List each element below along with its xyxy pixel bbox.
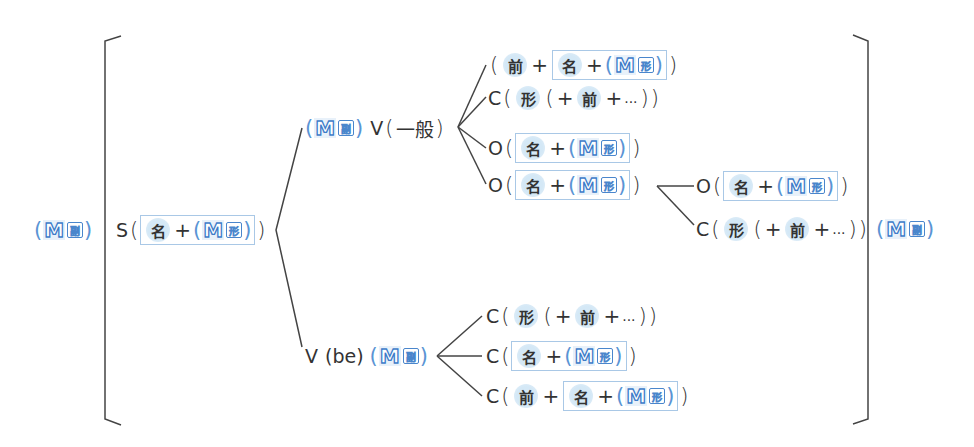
verb-type: 一般 [396, 115, 434, 142]
noun-phrase-box: 名 + ( M 形 ) [511, 341, 626, 371]
noun-chip: 名 [146, 218, 170, 242]
sub-object-noun-phrase: O ( 名 + ( M 形 ) ) [696, 171, 850, 201]
open-paren: ( [568, 136, 576, 160]
complement-label: C [696, 218, 709, 240]
be-complement-noun-phrase: C ( 名 + ( M 形 ) ) [486, 341, 639, 371]
noun-phrase-box: 名 + ( M 形 ) [563, 381, 678, 411]
be-complement-prep-phrase: C ( 前 + 名 + ( M 形 ) ) [486, 381, 691, 411]
adjective-icon: 形 [226, 222, 242, 238]
plus: + [557, 86, 574, 110]
object-noun-phrase-2: O ( 名 + ( M 形 ) ) [488, 170, 642, 200]
open-paren: ( [713, 174, 721, 198]
close-paren: ) [840, 174, 848, 198]
modifier-badge: M 形 [573, 346, 613, 366]
ellipsis: ... [624, 90, 637, 106]
modifier-badge: M 形 [614, 55, 654, 75]
be-complement-adjective: C ( 形 ( + 前 + ... ) ) [486, 301, 659, 331]
object-noun-phrase: O ( 名 + ( M 形 ) ) [488, 133, 642, 163]
noun-chip: 名 [569, 384, 593, 408]
close-paren: ) [641, 86, 649, 110]
open-paren: ( [876, 217, 884, 241]
noun-phrase-box: 名 + ( M 形 ) [515, 170, 630, 200]
close-paren: ) [632, 173, 640, 197]
close-paren: ) [629, 344, 637, 368]
close-paren: ) [614, 344, 622, 368]
plus: + [549, 173, 566, 197]
plus: + [586, 53, 603, 77]
general-verb-node: ( M 副 ) V ( 一般 ) [304, 113, 446, 143]
close-paren: ) [436, 116, 444, 140]
m-icon: M [314, 118, 336, 138]
plus: + [603, 304, 620, 328]
plus: + [545, 344, 562, 368]
m-icon: M [625, 386, 647, 406]
complement-prep-phrase: ( 前 + 名 + ( M 形 ) ) [488, 50, 679, 80]
plus: + [757, 174, 774, 198]
adjective-chip: 形 [516, 86, 540, 110]
close-paren: ) [680, 384, 688, 408]
modifier-badge: M 形 [577, 138, 617, 158]
open-paren: ( [505, 173, 513, 197]
modifier-badge: M 副 [379, 346, 419, 366]
complement-label: C [486, 305, 499, 327]
m-icon: M [577, 138, 599, 158]
modifier-badge: M 副 [314, 118, 354, 138]
preposition-chip: 前 [575, 304, 599, 328]
open-paren: ( [490, 53, 498, 77]
close-paren: ) [849, 217, 857, 241]
open-paren: ( [305, 116, 313, 140]
modifier-badge: M 形 [577, 175, 617, 195]
open-paren: ( [34, 218, 42, 242]
noun-chip: 名 [521, 173, 545, 197]
plus: + [813, 217, 830, 241]
ellipsis: ... [622, 308, 635, 324]
noun-phrase-box: 名 + ( M 形 ) [723, 171, 838, 201]
open-paren: ( [385, 116, 393, 140]
adverb-icon: 副 [67, 222, 83, 238]
modifier-badge: M 形 [625, 386, 665, 406]
plus: + [531, 53, 548, 77]
noun-phrase-box: 名 + ( M 形 ) [515, 133, 630, 163]
close-paren: ) [651, 86, 659, 110]
subject-fork [276, 128, 302, 347]
m-icon: M [573, 346, 595, 366]
open-paren: ( [193, 218, 201, 242]
open-paren: ( [545, 86, 553, 110]
open-paren: ( [776, 174, 784, 198]
close-paren: ) [257, 218, 265, 242]
m-icon: M [785, 176, 807, 196]
object-label: O [696, 175, 711, 197]
close-paren: ) [859, 217, 867, 241]
sub-complement-adjective: C ( 形 ( + 前 + ... ) ) [696, 214, 869, 244]
open-paren: ( [568, 173, 576, 197]
be-verb-node: V (be) ( M 副 ) [305, 341, 429, 371]
close-paren: ) [84, 218, 92, 242]
subject-label: S [116, 219, 128, 241]
open-paren: ( [753, 217, 761, 241]
plus: + [605, 86, 622, 110]
verb-label: V [370, 117, 383, 139]
noun-phrase-box: 名 + ( M 形 ) [140, 215, 255, 245]
adverb-icon: 副 [338, 120, 354, 136]
adjective-icon: 形 [809, 178, 825, 194]
adverb-icon: 副 [909, 221, 925, 237]
close-paren: ) [655, 53, 663, 77]
m-icon: M [577, 175, 599, 195]
open-paren: ( [543, 304, 551, 328]
ellipsis: ... [832, 221, 845, 237]
open-paren: ( [130, 218, 138, 242]
m-icon: M [379, 346, 401, 366]
verb-type: (be) [325, 345, 364, 367]
plus: + [542, 384, 559, 408]
noun-chip: 名 [521, 136, 545, 160]
verb-label: V [305, 345, 318, 367]
object-label: O [488, 137, 503, 159]
open-paren: ( [564, 344, 572, 368]
adjective-chip: 形 [514, 304, 538, 328]
close-paren: ) [666, 384, 674, 408]
noun-phrase-box: 名 + ( M 形 ) [552, 50, 667, 80]
plus: + [549, 136, 566, 160]
left-adverb-modifier: ( M 副 ) [33, 215, 93, 245]
noun-chip: 名 [729, 174, 753, 198]
close-paren: ) [826, 174, 834, 198]
